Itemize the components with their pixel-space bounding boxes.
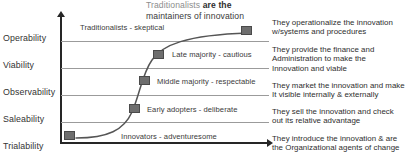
description-innovators-line1: They introduce the innovation & are	[272, 134, 409, 143]
curve-label-innovators: Innovators - adventuresome	[121, 132, 217, 141]
marker-innovators	[64, 131, 75, 140]
description-late-majority-line3: Innovation and viable	[272, 64, 409, 73]
description-early-adopters-line1: They sell the innovation and check	[272, 107, 409, 116]
curve-label-traditionalists: Traditionalists - skeptical	[80, 23, 164, 32]
description-late-majority-line2: Administration to make the	[272, 54, 409, 63]
curve-label-late-majority: Late majority - cautious	[172, 50, 252, 59]
description-early-adopters-line2: out its relative advantage	[272, 116, 409, 125]
curve-label-early-adopters: Early adopters - deliberate	[147, 105, 237, 114]
description-traditionalists-line1: They operationalize the innovation	[272, 18, 409, 27]
diffusion-of-innovation-chart: Traditionalists are the maintainers of i…	[0, 0, 409, 161]
description-middle-majority-line2: It visible internally & externally	[272, 90, 409, 99]
marker-middle-majority	[139, 76, 150, 85]
marker-late-majority	[153, 50, 164, 59]
description-innovators: They introduce the innovation & are the …	[272, 134, 409, 153]
description-late-majority-line1: They provide the finance and	[272, 45, 409, 54]
description-traditionalists-line2: w/systems and procedures	[272, 27, 409, 36]
marker-traditionalists	[241, 26, 252, 35]
curve-label-middle-majority: Middle majority - respectable	[157, 77, 256, 86]
description-early-adopters: They sell the innovation and check out i…	[272, 107, 409, 126]
description-late-majority: They provide the finance and Administrat…	[272, 45, 409, 73]
description-innovators-line2: the Organizational agents of change	[272, 143, 409, 152]
description-traditionalists: They operationalize the innovation w/sys…	[272, 18, 409, 37]
description-middle-majority: They market the innovation and make It v…	[272, 81, 409, 100]
marker-early-adopters	[129, 104, 140, 113]
description-middle-majority-line1: They market the innovation and make	[272, 81, 409, 90]
